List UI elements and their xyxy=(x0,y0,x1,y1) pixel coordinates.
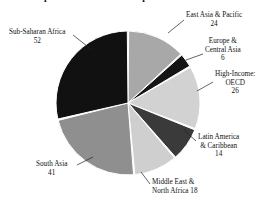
slice-label-middle-east-north-africa: Middle East & North Africa 18 xyxy=(152,178,198,195)
slice-label-south-asia: South Asia 41 xyxy=(36,160,67,177)
slice-label-text-2: Central Asia xyxy=(205,46,241,54)
slice-label-text: Sub-Saharan Africa xyxy=(9,28,65,36)
slice-label-east-asia-pacific: East Asia & Pacific 24 xyxy=(186,11,242,28)
leader-line-east-asia-pacific xyxy=(168,20,184,33)
slice-value: 24 xyxy=(186,20,242,29)
slice-value: 6 xyxy=(205,54,241,63)
slice-label-text-2: & Caribbean xyxy=(200,142,237,150)
slice-label-text: East Asia & Pacific xyxy=(186,11,242,19)
slice-label-latin-america-caribbean: Latin America & Caribbean 14 xyxy=(198,133,239,159)
slice-label-high-income-oecd: High-Income: OECD 26 xyxy=(215,70,255,96)
slice-label-text: High-Income: xyxy=(215,70,255,78)
slice-value: 41 xyxy=(36,169,67,178)
pie-chart-figure: Top Cities in 2050 with Population and P… xyxy=(0,0,270,205)
pie-slice-sub-saharan-africa xyxy=(56,31,128,119)
slice-value: 14 xyxy=(198,150,239,159)
leader-line-middle-east-north-africa xyxy=(141,172,150,184)
slice-label-text-2: OECD xyxy=(225,79,245,87)
slice-label-sub-saharan-africa: Sub-Saharan Africa 52 xyxy=(9,28,65,45)
slice-value: 26 xyxy=(215,87,255,96)
pie-slice-group xyxy=(56,31,200,175)
slice-label-text: Middle East & xyxy=(152,178,194,186)
slice-label-text-2: North Africa 18 xyxy=(152,187,198,195)
slice-value: 52 xyxy=(9,37,65,46)
slice-label-europe-central-asia: Europe & Central Asia 6 xyxy=(205,37,241,63)
leader-line-high-income-oecd xyxy=(197,82,213,91)
slice-label-text: Europe & xyxy=(209,37,237,45)
slice-label-text: South Asia xyxy=(36,160,67,168)
leader-line-europe-central-asia xyxy=(186,54,203,60)
slice-label-text: Latin America xyxy=(198,133,239,141)
